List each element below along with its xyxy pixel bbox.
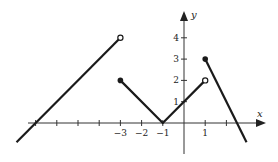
open-endpoint-icon — [203, 78, 208, 83]
closed-endpoint-icon — [118, 78, 124, 84]
closed-endpoint-icon — [202, 56, 208, 62]
piece-1 — [17, 35, 123, 142]
tick-marks — [36, 38, 227, 126]
piece-2 — [118, 78, 208, 123]
x-tick-label: −2 — [135, 128, 148, 138]
y-axis-label: y — [190, 9, 197, 20]
x-axis-label: x — [257, 108, 263, 119]
x-tick-label: −1 — [156, 128, 169, 138]
x-axis-arrow-icon — [256, 119, 266, 127]
y-tick-label: 3 — [173, 54, 179, 64]
graph-pieces — [17, 35, 247, 142]
open-endpoint-icon — [118, 35, 123, 40]
piece-3 — [202, 56, 246, 142]
x-tick-label: 1 — [202, 128, 208, 138]
y-axis-arrow-icon — [180, 11, 188, 21]
function-graph: −3−2−111234 x y — [0, 0, 278, 162]
graph-segment — [17, 38, 121, 142]
y-tick-label: 4 — [173, 33, 179, 43]
graph-segment — [205, 59, 246, 142]
y-tick-label: 2 — [173, 75, 179, 85]
x-tick-label: −3 — [114, 128, 128, 138]
graph-segment — [120, 80, 205, 123]
y-tick-label: 1 — [173, 97, 179, 107]
